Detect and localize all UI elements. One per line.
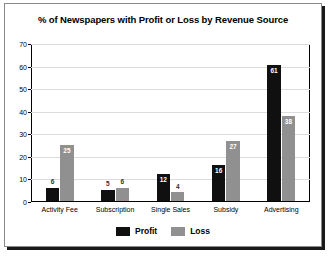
- bar-loss[interactable]: 27: [226, 141, 240, 201]
- chart-title: % of Newspapers with Profit or Loss by R…: [5, 14, 321, 25]
- frame-shadow-bottom: [7, 247, 325, 250]
- y-tick-label: 70: [19, 41, 27, 48]
- bar-value-label: 27: [229, 144, 236, 151]
- bar-profit[interactable]: 6: [46, 188, 60, 201]
- y-tick-label: 40: [19, 108, 27, 115]
- bar-profit[interactable]: 16: [212, 165, 226, 201]
- bar-value-label: 12: [160, 177, 167, 184]
- bar-loss[interactable]: 4: [171, 192, 185, 201]
- x-axis-category-label: Advertising: [264, 206, 299, 213]
- x-axis-category-label: Activity Fee: [42, 206, 78, 213]
- bar-value-label: 5: [106, 181, 110, 188]
- y-tick-mark: [28, 179, 31, 180]
- x-axis-category-label: Subsidy: [213, 206, 238, 213]
- bar-value-label: 6: [51, 179, 55, 186]
- frame-shadow-right: [322, 6, 325, 250]
- bar-group: 56Subscription: [87, 45, 142, 201]
- y-tick-label: 50: [19, 86, 27, 93]
- y-tick-mark: [28, 89, 31, 90]
- y-tick-label: 60: [19, 63, 27, 70]
- bar-loss[interactable]: 38: [282, 116, 296, 201]
- legend-label: Loss: [190, 226, 210, 236]
- y-tick-label: 10: [19, 176, 27, 183]
- bar-value-label: 16: [215, 168, 222, 175]
- bar-group: 1627Subsidy: [198, 45, 253, 201]
- bar-group: 6138Advertising: [254, 45, 309, 201]
- bar-group: 625Activity Fee: [32, 45, 87, 201]
- y-tick-mark: [28, 157, 31, 158]
- legend-swatch-loss: [171, 227, 185, 236]
- bar-profit[interactable]: 61: [267, 65, 281, 201]
- bar-value-label: 38: [285, 119, 292, 126]
- bar-profit[interactable]: 12: [157, 174, 171, 201]
- y-tick-mark: [28, 44, 31, 45]
- y-tick-label: 20: [19, 153, 27, 160]
- bar-value-label: 25: [63, 148, 70, 155]
- bar-loss[interactable]: 6: [116, 188, 130, 201]
- legend-item-profit[interactable]: Profit: [116, 226, 157, 236]
- y-tick-mark: [28, 202, 31, 203]
- bar-profit[interactable]: 5: [101, 190, 115, 201]
- chart-legend: ProfitLoss: [5, 226, 321, 236]
- y-tick-mark: [28, 134, 31, 135]
- legend-label: Profit: [135, 226, 157, 236]
- y-tick-mark: [28, 67, 31, 68]
- y-tick-label: 30: [19, 131, 27, 138]
- plot-wrapper: 010203040506070 625Activity Fee56Subscri…: [31, 44, 310, 202]
- y-tick-mark: [28, 112, 31, 113]
- x-axis-category-label: Subscription: [96, 206, 135, 213]
- bar-group: 124Single Sales: [143, 45, 198, 201]
- bar-loss[interactable]: 25: [60, 145, 74, 201]
- chart-figure: % of Newspapers with Profit or Loss by R…: [4, 3, 322, 247]
- bar-value-label: 61: [270, 68, 277, 75]
- legend-swatch-profit: [116, 227, 130, 236]
- bar-value-label: 6: [120, 179, 124, 186]
- legend-item-loss[interactable]: Loss: [171, 226, 210, 236]
- bars-layer: 625Activity Fee56Subscription124Single S…: [32, 45, 309, 201]
- bar-value-label: 4: [176, 184, 180, 191]
- y-tick-label: 0: [23, 199, 27, 206]
- x-axis-category-label: Single Sales: [151, 206, 190, 213]
